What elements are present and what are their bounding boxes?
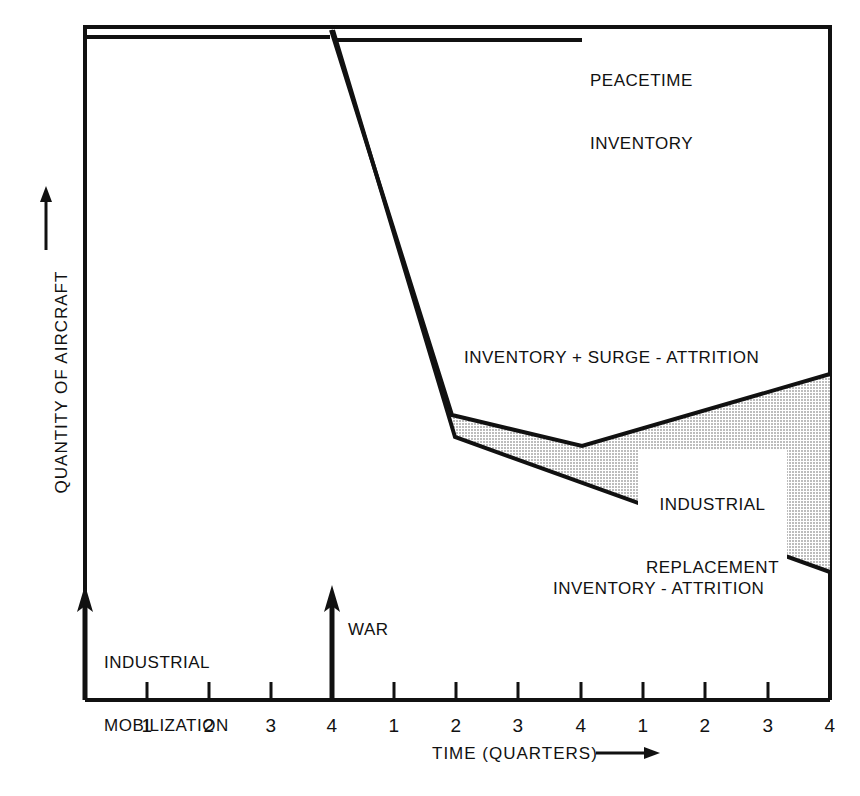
x-tick-label: 3 [256, 715, 286, 737]
x-axis-arrow-icon [596, 747, 660, 759]
x-tick-label: 4 [566, 715, 596, 737]
x-tick-label: 3 [753, 715, 783, 737]
annotation-war: WAR [348, 619, 389, 640]
annotation-peacetime-line1: PEACETIME [590, 70, 693, 91]
x-tick-label: 4 [317, 715, 347, 737]
annotation-replacement-line2: REPLACEMENT [646, 557, 779, 578]
x-tick-label: 2 [441, 715, 471, 737]
annotation-industrial-mobilization: INDUSTRIAL MOBILIZATION [104, 610, 229, 778]
annotation-peacetime-inventory: PEACETIME INVENTORY [590, 28, 693, 196]
industrial-mobilization-arrow-icon [77, 585, 93, 700]
x-axis-ticks [147, 682, 768, 700]
x-tick-label: 1 [379, 715, 409, 737]
y-axis-title: QUANTITY OF AIRCRAFT [52, 172, 72, 592]
annotation-inventory-plus-surge-minus-attrition: INVENTORY + SURGE - ATTRITION [464, 347, 759, 368]
x-tick-label: 4 [815, 715, 845, 737]
x-tick-label: 2 [690, 715, 720, 737]
x-axis-title: TIME (QUARTERS) [432, 744, 598, 764]
y-axis-arrow-icon [40, 186, 52, 250]
annotation-replacement-line1: INDUSTRIAL [646, 494, 779, 515]
x-tick-label: 2 [194, 715, 224, 737]
war-arrow-icon [324, 585, 340, 700]
x-tick-label: 1 [628, 715, 658, 737]
chart-figure: PEACETIME INVENTORY INVENTORY + SURGE - … [0, 0, 860, 796]
x-tick-label: 3 [503, 715, 533, 737]
x-tick-label: 1 [132, 715, 162, 737]
annotation-peacetime-line2: INVENTORY [590, 133, 693, 154]
inventory-plus-surge-minus-attrition-line [331, 30, 830, 446]
annotation-mobilization-line1: INDUSTRIAL [104, 652, 229, 673]
annotation-inventory-minus-attrition: INVENTORY - ATTRITION [553, 578, 764, 599]
